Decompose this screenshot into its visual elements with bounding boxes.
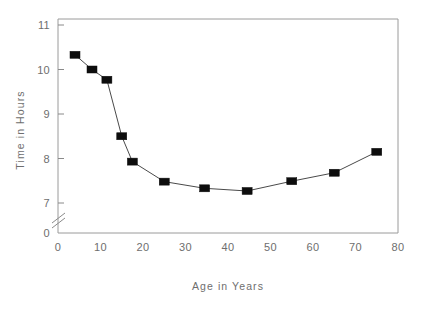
y-tick-label: 9 — [44, 108, 50, 120]
data-point-marker — [117, 133, 127, 140]
y-tick-label: 11 — [38, 19, 50, 31]
data-point-marker — [127, 158, 137, 165]
chart-background — [0, 0, 423, 314]
data-point-marker — [102, 76, 112, 83]
x-tick-label: 80 — [392, 241, 405, 253]
y-tick-label: 8 — [44, 153, 50, 165]
x-tick-label: 10 — [94, 241, 107, 253]
data-point-marker — [200, 185, 210, 192]
data-point-marker — [287, 178, 297, 185]
y-tick-label: 7 — [44, 197, 50, 209]
data-point-marker — [329, 169, 339, 176]
data-point-marker — [70, 51, 80, 58]
x-tick-label: 30 — [179, 241, 192, 253]
y-tick-label: 0 — [44, 227, 50, 239]
x-tick-label: 0 — [55, 241, 61, 253]
data-point-marker — [242, 187, 252, 194]
x-tick-label: 70 — [349, 241, 362, 253]
x-tick-label: 50 — [264, 241, 277, 253]
data-point-marker — [159, 178, 169, 185]
x-axis-title: Age in Years — [192, 280, 264, 292]
x-tick-label: 60 — [307, 241, 320, 253]
data-point-marker — [87, 66, 97, 73]
line-chart: 07891011 01020304050607080 Time in Hours… — [0, 0, 423, 314]
y-axis-title: Time in Hours — [14, 90, 26, 169]
chart-figure: 07891011 01020304050607080 Time in Hours… — [0, 0, 423, 314]
x-tick-label: 20 — [137, 241, 150, 253]
data-point-marker — [372, 148, 382, 155]
x-tick-label: 40 — [222, 241, 235, 253]
y-tick-label: 10 — [37, 64, 50, 76]
